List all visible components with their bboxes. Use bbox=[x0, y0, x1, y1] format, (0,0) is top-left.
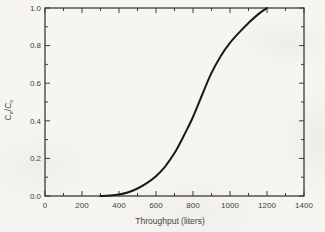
breakthrough-chart: 02004006008001000120014000.00.20.40.60.8… bbox=[0, 0, 325, 232]
x-axis-label: Throughput (liters) bbox=[135, 216, 205, 226]
y-tick-label: 1.0 bbox=[30, 4, 42, 13]
x-tick-label: 200 bbox=[75, 201, 89, 210]
y-tick-label: 0.8 bbox=[30, 41, 42, 50]
breakthrough-curve-figure: 02004006008001000120014000.00.20.40.60.8… bbox=[0, 0, 325, 232]
x-tick-label: 800 bbox=[186, 201, 200, 210]
y-axis-label: Ce/Co bbox=[3, 100, 14, 121]
x-tick-label: 0 bbox=[43, 201, 48, 210]
x-tick-label: 400 bbox=[112, 201, 126, 210]
breakthrough-curve-line bbox=[101, 8, 268, 196]
axis-ticks bbox=[45, 8, 304, 196]
plot-frame bbox=[45, 8, 304, 196]
y-tick-label: 0.6 bbox=[30, 79, 42, 88]
y-tick-label: 0.4 bbox=[30, 117, 42, 126]
x-tick-label: 1400 bbox=[295, 201, 313, 210]
y-tick-label: 0.0 bbox=[30, 192, 42, 201]
x-tick-label: 600 bbox=[149, 201, 163, 210]
axis-tick-labels: 02004006008001000120014000.00.20.40.60.8… bbox=[30, 4, 314, 210]
y-tick-label: 0.2 bbox=[30, 154, 42, 163]
x-tick-label: 1000 bbox=[221, 201, 239, 210]
x-tick-label: 1200 bbox=[258, 201, 276, 210]
